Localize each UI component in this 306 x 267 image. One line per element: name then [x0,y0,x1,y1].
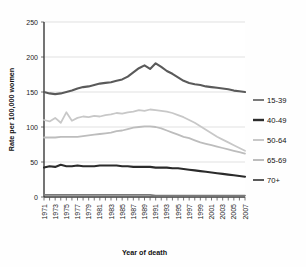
y-axis-title: Rate per 100,000 women [7,68,16,152]
x-tick-label: 1981 [96,204,103,220]
x-tick-label: 2005 [230,204,237,220]
x-axis-title: Year of death [122,248,167,257]
x-tick-label: 2001 [208,204,215,220]
legend-label-50-64: 50-64 [267,136,286,145]
x-tick-label: 1975 [63,204,70,220]
series-line-15-39 [44,195,245,196]
x-tick-label: 1991 [152,204,159,220]
x-tick-label: 2007 [242,204,249,220]
x-tick-label: 1999 [197,204,204,220]
x-tick-label: 1979 [85,204,92,220]
x-tick-label: 1973 [52,204,59,220]
legend-label-15-39: 15-39 [267,96,286,105]
chart-figure: 0501001502002501971197319751977197919811… [0,0,306,267]
line-chart-canvas: 0501001502002501971197319751977197919811… [0,0,306,267]
x-tick-label: 1987 [130,204,137,220]
x-tick-label: 1993 [163,204,170,220]
legend-label-40-49: 40-49 [267,116,286,125]
x-tick-label: 1985 [119,204,126,220]
y-tick-label: 0 [34,194,38,201]
x-tick-label: 1971 [41,204,48,220]
legend-label-70+: 70+ [267,176,280,185]
y-tick-label: 200 [26,54,38,61]
x-tick-label: 1977 [74,204,81,220]
y-tick-label: 100 [26,124,38,131]
plot-background [44,22,245,197]
x-tick-label: 2003 [219,204,226,220]
y-tick-label: 250 [26,19,38,26]
x-tick-label: 1983 [108,204,115,220]
legend-label-65-69: 65-69 [267,156,286,165]
y-tick-label: 150 [26,89,38,96]
y-tick-label: 50 [30,159,38,166]
x-tick-label: 1997 [186,204,193,220]
x-tick-label: 1989 [141,204,148,220]
x-tick-label: 1995 [175,204,182,220]
